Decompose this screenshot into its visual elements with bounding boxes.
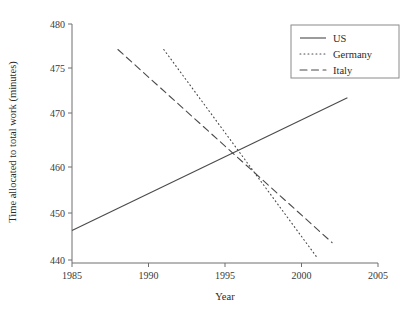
chart-container: 440450460470475480 19851990199520002005 … <box>0 0 406 314</box>
legend-label-germany: Germany <box>333 49 373 60</box>
x-axis-title: Year <box>215 291 235 302</box>
y-tick-label: 480 <box>50 19 65 30</box>
y-axis-title: Time allocated to total work (minutes) <box>7 61 19 223</box>
legend-entries: USGermanyItaly <box>300 33 373 76</box>
x-axis-ticks: 19851990199520002005 <box>62 263 388 281</box>
y-tick-label: 470 <box>50 108 65 119</box>
x-axis-title-label: Year <box>215 291 235 302</box>
data-series-group <box>72 50 347 258</box>
x-tick-label: 1990 <box>139 270 159 281</box>
y-tick-label: 475 <box>50 63 65 74</box>
legend-label-us: US <box>333 33 347 44</box>
chart-legend: USGermanyItaly <box>291 25 399 78</box>
y-tick-label: 450 <box>50 208 65 219</box>
x-tick-label: 2000 <box>292 270 312 281</box>
y-axis-title-label: Time allocated to total work (minutes) <box>7 61 19 223</box>
series-line-germany <box>164 50 317 258</box>
y-axis-ticks: 440450460470475480 <box>50 19 72 266</box>
legend-label-italy: Italy <box>333 65 353 76</box>
x-tick-label: 1995 <box>215 270 235 281</box>
y-tick-label: 440 <box>50 255 65 266</box>
line-chart: 440450460470475480 19851990199520002005 … <box>0 0 406 314</box>
x-tick-label: 2005 <box>368 270 388 281</box>
y-tick-label: 460 <box>50 162 65 173</box>
series-line-us <box>72 98 347 231</box>
x-tick-label: 1985 <box>62 270 82 281</box>
